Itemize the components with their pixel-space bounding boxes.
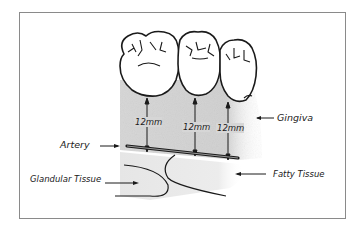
gingiva-label: Gingiva bbox=[277, 112, 313, 123]
fatty-tissue-label: Fatty Tissue bbox=[273, 169, 325, 179]
measurement-1: 12mm bbox=[135, 117, 162, 127]
glandular-tissue-label: Glandular Tissue bbox=[30, 174, 101, 184]
tooth-premolar-2 bbox=[178, 32, 221, 96]
measurement-2: 12mm bbox=[183, 122, 210, 132]
fatty-tissue-region bbox=[120, 152, 243, 200]
dental-anatomy-diagram: 12mm 12mm 12mm Gingiva Artery Glandular … bbox=[0, 0, 362, 232]
measurement-3: 12mm bbox=[217, 123, 244, 133]
artery-label-group: Artery bbox=[59, 139, 120, 150]
gingiva-label-group: Gingiva bbox=[256, 112, 313, 123]
tooth-molar-1 bbox=[120, 32, 180, 97]
teeth-group bbox=[120, 32, 257, 102]
artery-label: Artery bbox=[59, 139, 90, 150]
tooth-premolar-3 bbox=[220, 40, 257, 102]
fatty-tissue-label-group: Fatty Tissue bbox=[235, 169, 325, 179]
